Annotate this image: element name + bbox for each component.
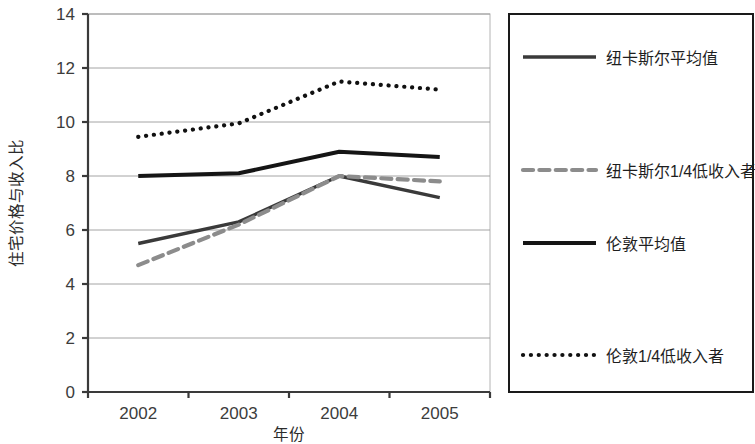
y-tick-label: 8 xyxy=(66,167,75,186)
legend-label-1: 纽卡斯尔1/4低收入者 xyxy=(606,163,755,180)
legend-box xyxy=(509,14,753,392)
x-tick-label: 2004 xyxy=(320,404,358,423)
y-tick-labels: 02468101214 xyxy=(56,5,75,402)
x-tick-label: 2005 xyxy=(421,404,459,423)
x-tick-label: 2002 xyxy=(119,404,157,423)
chart-figure: 02468101214 2002200320042005 住宅价格与收入比 年份… xyxy=(0,0,755,444)
plot-area xyxy=(88,14,490,392)
y-tick-label: 0 xyxy=(66,383,75,402)
legend-label-3: 伦敦1/4低收入者 xyxy=(606,348,724,365)
y-tick-label: 12 xyxy=(56,59,75,78)
y-tick-label: 2 xyxy=(66,329,75,348)
y-tick-label: 6 xyxy=(66,221,75,240)
y-tick-label: 4 xyxy=(66,275,75,294)
x-axis xyxy=(88,392,490,398)
legend-label-2: 伦敦平均值 xyxy=(606,236,686,253)
x-tick-label: 2003 xyxy=(220,404,258,423)
legend-label-0: 纽卡斯尔平均值 xyxy=(606,50,718,67)
y-tick-label: 10 xyxy=(56,113,75,132)
line-chart: 02468101214 2002200320042005 住宅价格与收入比 年份… xyxy=(0,0,755,444)
x-tick-labels: 2002200320042005 xyxy=(119,404,458,423)
x-axis-title: 年份 xyxy=(273,426,305,443)
y-axis-title: 住宅价格与收入比 xyxy=(8,139,25,267)
y-tick-label: 14 xyxy=(56,5,75,24)
y-axis xyxy=(82,14,88,392)
